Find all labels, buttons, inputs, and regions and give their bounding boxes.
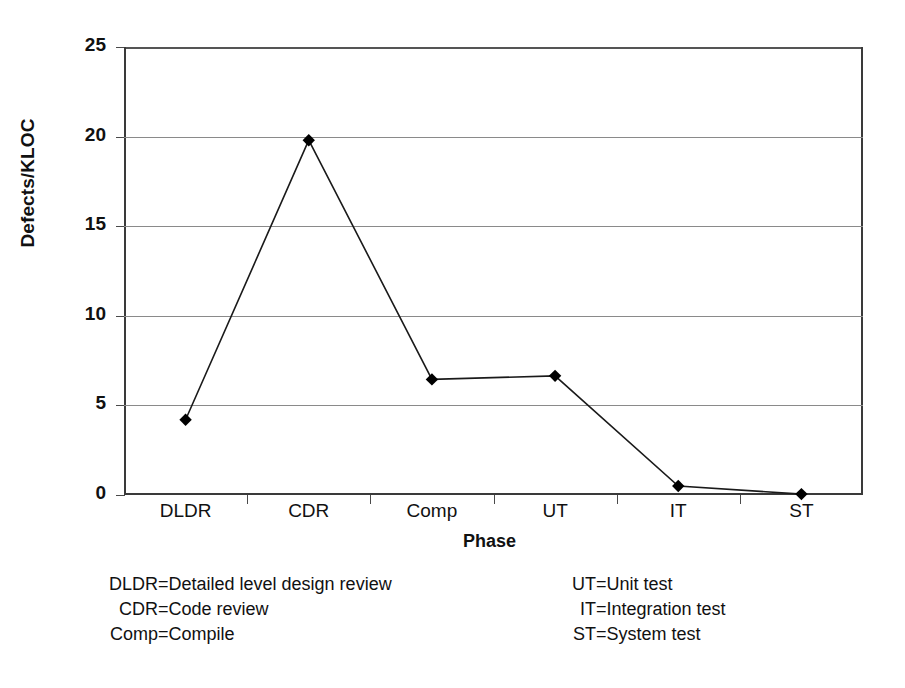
legend-abbreviation: DLDR [96,572,158,597]
legend-equals-sign: = [596,572,607,597]
legend-equals-sign: = [158,572,169,597]
y-tick-label: 15 [38,213,106,235]
x-tick-label-dldr: DLDR [124,500,247,522]
legend-description: Code review [169,597,269,622]
legend-equals-sign: = [596,597,607,622]
legend-row: IT=Integration test [560,597,726,622]
y-tick-label: 0 [38,482,106,504]
legend-description: Unit test [607,572,673,597]
gridline [124,405,863,406]
legend-equals-sign: = [596,622,607,647]
x-tick-label-it: IT [617,500,740,522]
legend-row: ST=System test [560,622,726,647]
y-tick-label: 20 [38,124,106,146]
legend-column-right: UT=Unit testIT=Integration testST=System… [560,572,726,647]
legend-equals-sign: = [158,622,169,647]
legend-abbreviation: Comp [96,622,158,647]
plot-border-top [124,47,863,49]
x-tick-label-comp: Comp [370,500,493,522]
legend-row: CDR=Code review [96,597,392,622]
legend-abbreviation: IT [560,597,596,622]
y-tick-label: 5 [38,392,106,414]
legend-description: Integration test [607,597,726,622]
x-axis-title: Phase [0,531,905,552]
legend-column-left: DLDR=Detailed level design reviewCDR=Cod… [96,572,392,647]
y-tick-label: 25 [38,34,106,56]
x-axis-title-text: Phase [463,531,516,551]
legend-row: UT=Unit test [560,572,726,597]
gridline [124,137,863,138]
abbreviation-legend: DLDR=Detailed level design reviewCDR=Cod… [0,572,905,652]
legend-row: DLDR=Detailed level design review [96,572,392,597]
legend-abbreviation: CDR [96,597,158,622]
gridline [124,226,863,227]
legend-abbreviation: ST [560,622,596,647]
y-tick-mark [116,495,125,496]
defects-per-kloc-line-chart: Defects/KLOC 0510152025 DLDRCDRCompUTITS… [0,0,905,688]
legend-row: Comp=Compile [96,622,392,647]
legend-description: System test [607,622,701,647]
plot-border-right [861,47,863,495]
x-tick-label-st: ST [740,500,863,522]
y-tick-label: 10 [38,303,106,325]
legend-equals-sign: = [158,597,169,622]
x-tick-label-ut: UT [494,500,617,522]
x-tick-label-cdr: CDR [247,500,370,522]
gridline [124,316,863,317]
legend-description: Compile [169,622,235,647]
plot-border-left [124,47,126,495]
legend-abbreviation: UT [560,572,596,597]
y-axis-title: Defects/KLOC [17,78,39,288]
plot-area [124,47,863,495]
legend-description: Detailed level design review [169,572,392,597]
